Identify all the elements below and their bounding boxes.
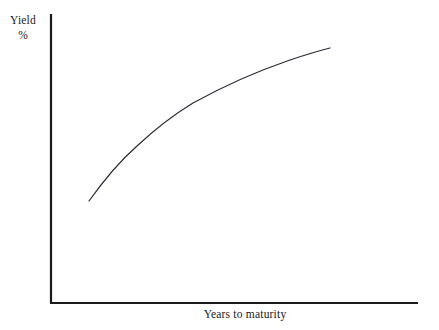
- chart-canvas: [0, 0, 439, 330]
- y-axis-label-percent: %: [0, 28, 46, 43]
- x-axis-label: Years to maturity: [150, 308, 340, 320]
- chart-background: [0, 0, 439, 330]
- y-axis-label-yield: Yield: [0, 13, 46, 28]
- chart-figure: Yield % Years to maturity: [0, 0, 439, 330]
